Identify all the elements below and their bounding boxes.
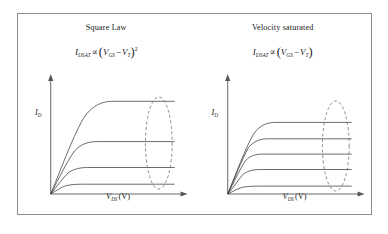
- iv-curve: [227, 170, 351, 195]
- formula-term2-symbol: V: [122, 47, 128, 57]
- iv-curve: [227, 154, 351, 194]
- formula-relation-icon: ∝: [269, 47, 277, 57]
- x-axis-arrowhead-icon: [357, 191, 364, 196]
- iv-curve: [51, 101, 175, 194]
- formula-term1-subscript: GS: [286, 52, 293, 58]
- formula-open-paren: (: [277, 45, 281, 59]
- formula-square-law: IDSAT∝(VGS−VT)2: [18, 44, 195, 59]
- panel-title-square-law: Square Law: [18, 23, 195, 32]
- iv-curve: [227, 122, 351, 194]
- formula-velocity-saturated: IDSAT∝(VGS−VT): [195, 44, 372, 59]
- formula-minus-icon: −: [293, 47, 300, 57]
- iv-curve: [51, 168, 175, 195]
- panel-title-velocity-saturated: Velocity saturated: [195, 23, 372, 32]
- iv-curve: [51, 184, 175, 194]
- formula-relation-icon: ∝: [91, 47, 99, 57]
- x-axis-arrowhead-icon: [181, 191, 188, 196]
- iv-curve: [227, 139, 351, 194]
- formula-close-paren: ): [308, 45, 312, 59]
- saturation-region-ellipse-marker: [322, 101, 349, 191]
- saturation-region-ellipse-marker: [145, 97, 172, 189]
- formula-exponent: 2: [135, 46, 138, 52]
- plot-velocity-saturated: [195, 66, 372, 216]
- plot-square-law: [18, 66, 195, 216]
- figure-frame: Square Law IDSAT∝(VGS−VT)2 ID VDS(V): [17, 13, 372, 215]
- formula-lhs-subscript: DSAT: [256, 52, 269, 58]
- formula-open-paren: (: [99, 45, 103, 59]
- iv-curve: [227, 186, 351, 194]
- y-axis-arrowhead-icon: [48, 74, 53, 81]
- formula-lhs-subscript: DSAT: [78, 52, 91, 58]
- formula-term1-subscript: GS: [108, 52, 115, 58]
- panel-square-law: Square Law IDSAT∝(VGS−VT)2 ID VDS(V): [18, 14, 195, 214]
- panel-velocity-saturated: Velocity saturated IDSAT∝(VGS−VT) ID VDS…: [195, 14, 372, 214]
- y-axis-arrowhead-icon: [225, 74, 230, 81]
